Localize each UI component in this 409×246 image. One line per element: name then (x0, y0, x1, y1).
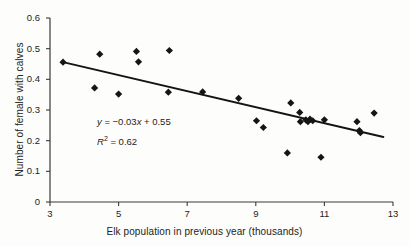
data-point-marker (59, 59, 66, 66)
x-tick-marks (50, 202, 393, 206)
equation-body: = −0.03 (102, 116, 137, 127)
x-tick-label: 11 (311, 208, 337, 219)
regression-equation-annotation: y = −0.03x + 0.55 (97, 116, 171, 127)
x-tick-label: 13 (380, 208, 406, 219)
x-axis-title: Elk population in previous year (thousan… (0, 226, 409, 237)
data-point-marker (284, 149, 291, 156)
data-point-marker (165, 89, 172, 96)
r-squared-annotation: R2 = 0.62 (97, 135, 137, 147)
data-point-marker (353, 118, 360, 125)
data-point-marker (235, 95, 242, 102)
data-point-marker (287, 99, 294, 106)
r2-symbol: R (97, 136, 104, 147)
equation-tail: + 0.55 (141, 116, 170, 127)
axis-lines (50, 18, 393, 202)
y-axis-title: Number of female with calves (14, 15, 25, 205)
data-point-marker (296, 109, 303, 116)
elk-calf-scatter-figure: 00.10.20.30.40.50.6 35791113 Number of f… (0, 0, 409, 246)
x-tick-label: 9 (243, 208, 269, 219)
data-point-marker (166, 47, 173, 54)
data-point-marker (91, 84, 98, 91)
data-point-marker (317, 154, 324, 161)
data-point-marker (115, 90, 122, 97)
data-point-marker (260, 124, 267, 131)
data-point-marker (96, 51, 103, 58)
data-point-marker (253, 117, 260, 124)
data-point-marker (371, 109, 378, 116)
data-point-marker (135, 58, 142, 65)
x-tick-label: 3 (37, 208, 63, 219)
data-point-marker (133, 48, 140, 55)
x-tick-label: 5 (106, 208, 132, 219)
r2-value: = 0.62 (108, 136, 137, 147)
x-tick-label: 7 (174, 208, 200, 219)
